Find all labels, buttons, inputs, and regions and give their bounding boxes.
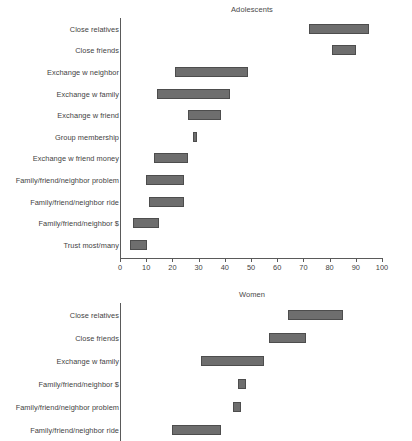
chart-row: Exchange w family (0, 349, 412, 372)
range-bar (269, 333, 306, 343)
row-label: Family/friend/neighbor ride (30, 425, 119, 434)
chart-row: Exchange w friend (0, 104, 412, 126)
range-bar (154, 153, 188, 163)
range-bar (288, 310, 343, 320)
x-axis-tick (330, 258, 331, 262)
row-label: Group membership (55, 132, 119, 141)
chart-title-adolescents: Adolescents (46, 5, 412, 14)
row-label: Exchange w friend (57, 111, 119, 120)
chart-row: Exchange w friend money (0, 148, 412, 170)
chart-row: Family/friend/neighbor ride (0, 191, 412, 213)
range-bar (309, 24, 369, 34)
x-axis: 0102030405060708090100 (0, 258, 412, 280)
chart-women: Women Close relativesClose friendsExchan… (0, 285, 412, 441)
x-axis-tick (172, 258, 173, 262)
range-bar (149, 197, 184, 207)
x-axis-tick (277, 258, 278, 262)
chart-row: Family/friend/neighbor $ (0, 372, 412, 395)
x-axis-tick (303, 258, 304, 262)
x-axis-tick (225, 258, 226, 262)
x-axis-tick (356, 258, 357, 262)
chart-row: Trust most/many (0, 234, 412, 256)
chart-row: Close relatives (0, 18, 412, 40)
x-axis-tick-label: 0 (118, 263, 122, 272)
range-bar (332, 45, 356, 55)
range-bar (193, 132, 197, 142)
chart-adolescents: Adolescents Close relativesClose friends… (0, 0, 412, 285)
chart-row: Family/friend/neighbor ride (0, 418, 412, 441)
chart-row: Family/friend/neighbor problem (0, 395, 412, 418)
row-label: Close relatives (70, 310, 119, 319)
chart-title-women: Women (46, 290, 412, 299)
range-bar (188, 110, 221, 120)
x-axis-tick (382, 258, 383, 262)
chart-row: Close relatives (0, 303, 412, 326)
range-bar (130, 240, 147, 250)
x-axis-tick (146, 258, 147, 262)
x-axis-tick-label: 90 (352, 263, 360, 272)
x-axis-tick-label: 30 (194, 263, 202, 272)
range-bar (233, 402, 241, 412)
row-label: Family/friend/neighbor $ (39, 219, 119, 228)
row-label: Family/friend/neighbor problem (16, 402, 119, 411)
range-bar (172, 425, 220, 435)
range-bar (133, 218, 159, 228)
x-axis-tick-label: 100 (376, 263, 388, 272)
x-axis-tick-label: 80 (325, 263, 333, 272)
row-label: Exchange w family (57, 89, 119, 98)
x-axis-tick-label: 20 (168, 263, 176, 272)
row-label: Close friends (75, 46, 119, 55)
x-axis-tick (120, 258, 121, 262)
x-axis-tick-label: 60 (273, 263, 281, 272)
row-label: Family/friend/neighbor problem (16, 175, 119, 184)
x-axis-tick-label: 50 (247, 263, 255, 272)
range-bar (201, 356, 264, 366)
row-label: Family/friend/neighbor $ (39, 379, 119, 388)
chart-row: Group membership (0, 126, 412, 148)
range-bar (175, 67, 248, 77)
row-label: Close relatives (70, 24, 119, 33)
range-bar (157, 89, 230, 99)
row-label: Trust most/many (63, 240, 119, 249)
x-axis-tick (251, 258, 252, 262)
row-label: Exchange w family (57, 356, 119, 365)
row-label: Exchange w friend money (33, 154, 119, 163)
range-bar (238, 379, 246, 389)
chart-row: Close friends (0, 40, 412, 62)
row-label: Close friends (75, 333, 119, 342)
chart-row: Family/friend/neighbor $ (0, 212, 412, 234)
chart-row: Exchange w neighbor (0, 61, 412, 83)
x-axis-tick-label: 40 (221, 263, 229, 272)
row-label: Family/friend/neighbor ride (30, 197, 119, 206)
x-axis-tick-label: 10 (142, 263, 150, 272)
x-axis-tick (199, 258, 200, 262)
chart-row: Close friends (0, 326, 412, 349)
chart-row: Family/friend/neighbor problem (0, 169, 412, 191)
row-label: Exchange w neighbor (47, 67, 119, 76)
x-axis-tick-label: 70 (299, 263, 307, 272)
chart-row: Exchange w family (0, 83, 412, 105)
range-bar (146, 175, 184, 185)
